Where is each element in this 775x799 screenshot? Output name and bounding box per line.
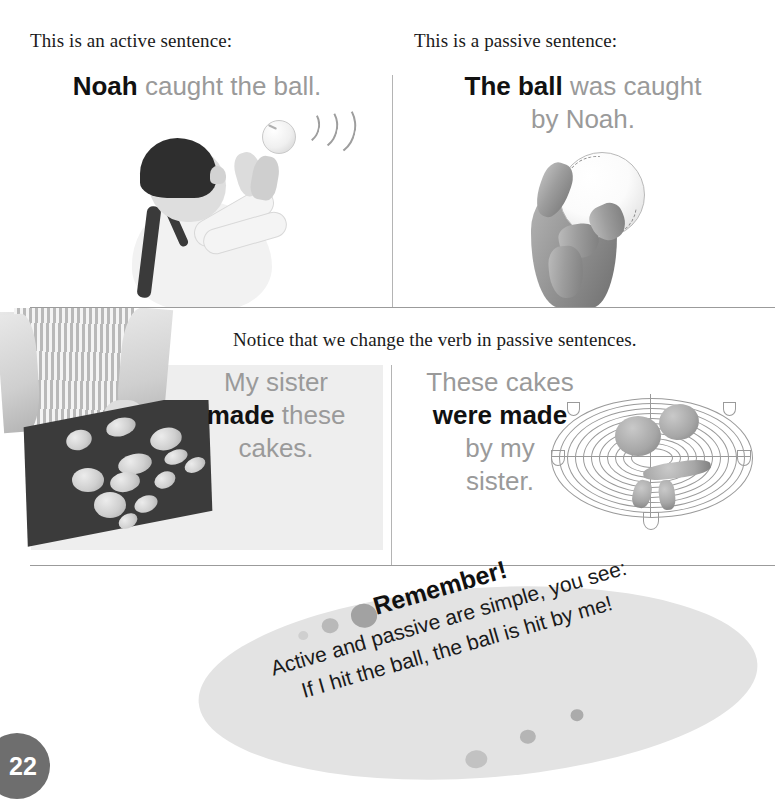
active-cakes-line3: cakes.: [238, 433, 313, 463]
active-cakes-line2-rest: these: [275, 400, 346, 430]
passive-sentence-heading: This is a passive sentence:: [414, 30, 617, 52]
motion-arc-icon: [305, 104, 362, 160]
bottom-panel-divider: [391, 365, 392, 565]
active-cakes-line1: My sister: [224, 367, 328, 397]
boy-catching-ball-photo: [118, 104, 380, 308]
wire-cooling-rack-photo: [547, 388, 762, 546]
top-panel-divider: [392, 75, 393, 308]
page-number: 22: [9, 752, 37, 781]
middle-note-text: Notice that we change the verb in passiv…: [233, 329, 637, 351]
passive-cakes-line3: by my: [465, 433, 534, 463]
active-sentence-heading: This is an active sentence:: [30, 30, 232, 52]
page-number-badge: 22: [0, 733, 50, 799]
remember-callout: Remember! Active and passive are simple,…: [192, 569, 764, 798]
bottom-row-divider: [30, 565, 775, 566]
active-sentence-text: Noah caught the ball.: [22, 70, 372, 103]
passive-cakes-line4: sister.: [466, 466, 534, 496]
active-sentence-predicate: caught the ball.: [138, 71, 322, 101]
passive-sentence-agent: by Noah.: [531, 104, 635, 134]
hand-holding-baseball-photo: [503, 140, 703, 308]
active-cakes-panel: My sister made these cakes.: [0, 360, 392, 565]
active-sentence-subject: Noah: [73, 71, 138, 101]
active-cakes-text: My sister made these cakes.: [170, 366, 382, 465]
active-sentence-panel: This is an active sentence: Noah caught …: [0, 0, 393, 308]
passive-sentence-panel: This is a passive sentence: The ball was…: [393, 0, 775, 308]
active-cakes-verb: made: [207, 400, 275, 430]
passive-sentence-subject: The ball: [465, 71, 563, 101]
passive-sentence-text: The ball was caught by Noah.: [403, 70, 763, 136]
passive-sentence-verb: was caught: [563, 71, 702, 101]
